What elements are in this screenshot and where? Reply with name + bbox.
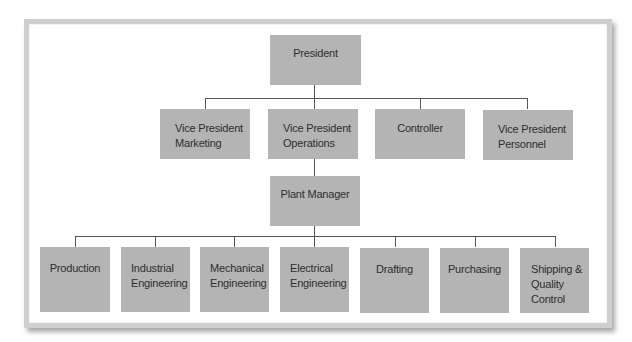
node-label-line: Marketing <box>175 136 250 151</box>
node-label-line: Operations <box>283 136 358 151</box>
connector-plant-down <box>314 226 315 236</box>
node-label-line: Purchasing <box>440 262 509 277</box>
node-label-line: Drafting <box>360 262 429 277</box>
node-label-line: Engineering <box>290 276 349 291</box>
node-label-line: Production <box>40 261 110 276</box>
node-label-line: Control <box>531 292 589 307</box>
node-shipping-quality-control: Shipping & Quality Control <box>520 248 589 313</box>
connector-dept-drafting <box>395 236 396 247</box>
node-label-line: Personnel <box>498 137 573 152</box>
node-label-line: Electrical <box>290 261 349 276</box>
node-production: Production <box>40 247 110 312</box>
node-label-line: Vice President <box>283 121 358 136</box>
node-president: President <box>270 35 361 85</box>
node-label-line: Vice President <box>498 122 573 137</box>
connector-vp-marketing <box>205 98 206 109</box>
node-mechanical-engineering: Mechanical Engineering <box>200 247 269 312</box>
node-controller: Controller <box>375 109 465 159</box>
connector-ops-to-plant <box>314 159 315 176</box>
node-industrial-engineering: Industrial Engineering <box>121 247 190 312</box>
connector-dept-shipping <box>555 236 556 247</box>
connector-dept-electrical <box>314 236 315 247</box>
node-label-line: Mechanical <box>210 261 269 276</box>
node-vp-personnel: Vice President Personnel <box>483 110 573 160</box>
connector-controller <box>420 98 421 109</box>
connector-vp-personnel <box>527 98 528 109</box>
node-drafting: Drafting <box>360 248 429 313</box>
node-label-line: Shipping & <box>531 262 589 277</box>
node-label-line: Quality <box>531 277 589 292</box>
node-vp-operations: Vice President Operations <box>268 109 358 159</box>
connector-dept-production <box>75 236 76 247</box>
node-purchasing: Purchasing <box>440 248 509 313</box>
node-label: Plant Manager <box>270 187 360 202</box>
node-label-line: Controller <box>375 121 465 136</box>
node-label-line: Vice President <box>175 121 250 136</box>
connector-president-down <box>314 85 315 98</box>
connector-dept-mechanical <box>234 236 235 247</box>
node-label-line: Industrial <box>131 261 190 276</box>
node-electrical-engineering: Electrical Engineering <box>280 247 349 312</box>
connector-dept-bus <box>75 236 555 237</box>
connector-vp-operations <box>314 98 315 109</box>
connector-dept-industrial <box>155 236 156 247</box>
connector-vp-bus <box>205 98 528 99</box>
node-label: President <box>270 46 361 61</box>
node-label-line: Engineering <box>131 276 190 291</box>
node-vp-marketing: Vice President Marketing <box>160 109 250 159</box>
node-plant-manager: Plant Manager <box>270 176 360 226</box>
connector-dept-purchasing <box>475 236 476 247</box>
node-label-line: Engineering <box>210 276 269 291</box>
